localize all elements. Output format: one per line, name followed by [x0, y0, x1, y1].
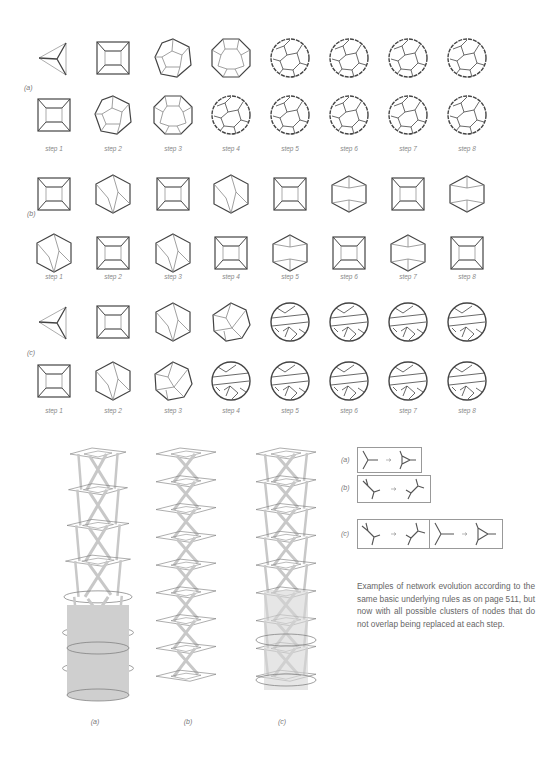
- polyhedron-graphic: [33, 173, 75, 215]
- polyhedron-graphic: [210, 301, 252, 343]
- panel-a-row2-step5-shape: [269, 94, 311, 136]
- polyhedron-graphic: [446, 301, 488, 343]
- panel-c-row1-step3-shape: [152, 301, 194, 343]
- polyhedron-graphic: [387, 37, 429, 79]
- panel-b-step-label: step 8: [442, 273, 492, 280]
- polyhedron-graphic: [269, 37, 311, 79]
- stack-b: [150, 440, 222, 710]
- panel-b-step-label: step 5: [265, 273, 315, 280]
- panel-a-row2-step6-shape: [328, 94, 370, 136]
- panel-c-step-label: step 3: [148, 407, 198, 414]
- panel-c-row2-step2-shape: [92, 360, 134, 402]
- polyhedron-graphic: [33, 37, 75, 79]
- panel-c-row2-step4-shape: [210, 360, 252, 402]
- panel-b-step-label: step 6: [324, 273, 374, 280]
- panel-a-step-label: step 6: [324, 145, 374, 152]
- figure-caption: Examples of network evolution according …: [357, 580, 535, 630]
- panel-a-step-label: step 5: [265, 145, 315, 152]
- polyhedron-graphic: [33, 301, 75, 343]
- panel-b-row2-step5-shape: [269, 232, 311, 274]
- polyhedron-graphic: [92, 37, 134, 79]
- panel-b-row2-step7-shape: [387, 232, 429, 274]
- polyhedron-graphic: [328, 94, 370, 136]
- panel-c-row2-step3-shape: [152, 360, 194, 402]
- polyhedron-graphic: [328, 301, 370, 343]
- panel-c-step-label: step 4: [206, 407, 256, 414]
- rule-b-diagram: [358, 476, 430, 502]
- polyhedron-graphic: [152, 360, 194, 402]
- polyhedron-graphic: [387, 94, 429, 136]
- panel-c-step-label: step 5: [265, 407, 315, 414]
- stack-a-graphic: [62, 440, 134, 710]
- polyhedron-graphic: [269, 360, 311, 402]
- panel-b-row2-step1-shape: [33, 232, 75, 274]
- rule-c-diagram-1: [358, 520, 430, 548]
- panel-a-step-label: step 8: [442, 145, 492, 152]
- polyhedron-graphic: [152, 37, 194, 79]
- polyhedron-graphic: [152, 301, 194, 343]
- panel-b-step-label: step 2: [88, 273, 138, 280]
- panel-c-row2-step6-shape: [328, 360, 370, 402]
- panel-b-row2-step4-shape: [210, 232, 252, 274]
- panel-c-row1-step2-shape: [92, 301, 134, 343]
- panel-c-row1-step7-shape: [387, 301, 429, 343]
- rule-a-label: (a): [341, 456, 350, 463]
- panel-c-step-label: step 8: [442, 407, 492, 414]
- panel-a-step-label: step 3: [148, 145, 198, 152]
- polyhedron-graphic: [92, 94, 134, 136]
- panel-c-row1-step5-shape: [269, 301, 311, 343]
- polyhedron-graphic: [269, 173, 311, 215]
- rule-c-box: [357, 519, 431, 549]
- panel-a-step-label: step 2: [88, 145, 138, 152]
- panel-a-row1-step4-shape: [210, 37, 252, 79]
- panel-a-row1-step3-shape: [152, 37, 194, 79]
- panel-c-step-label: step 7: [383, 407, 433, 414]
- panel-c-row1-step6-shape: [328, 301, 370, 343]
- rule-c-label: (c): [341, 530, 349, 537]
- panel-c-row1-step8-shape: [446, 301, 488, 343]
- polyhedron-graphic: [210, 37, 252, 79]
- panel-b-row1-step7-shape: [387, 173, 429, 215]
- polyhedron-graphic: [152, 232, 194, 274]
- panel-b-step-label: step 4: [206, 273, 256, 280]
- panel-c-row2-step8-shape: [446, 360, 488, 402]
- polyhedron-graphic: [210, 94, 252, 136]
- polyhedron-graphic: [269, 301, 311, 343]
- panel-a-row2-step1-shape: [33, 94, 75, 136]
- panel-b-row1-step8-shape: [446, 173, 488, 215]
- stack-c-label: (c): [267, 718, 297, 725]
- panel-a-row1-step8-shape: [446, 37, 488, 79]
- stack-c-graphic: [250, 440, 322, 710]
- polyhedron-graphic: [328, 173, 370, 215]
- polyhedron-graphic: [328, 232, 370, 274]
- polyhedron-graphic: [33, 360, 75, 402]
- polyhedron-graphic: [328, 360, 370, 402]
- rule-c-box-2: [429, 519, 503, 549]
- panel-b-step-label: step 1: [29, 273, 79, 280]
- panel-c-row1-step1-shape: [33, 301, 75, 343]
- panel-a-row1-step1-shape: [33, 37, 75, 79]
- panel-b-row1-step3-shape: [152, 173, 194, 215]
- panel-a-row1-step7-shape: [387, 37, 429, 79]
- polyhedron-graphic: [152, 94, 194, 136]
- panel-b-row2-step8-shape: [446, 232, 488, 274]
- rule-a-box: [357, 447, 422, 473]
- polyhedron-graphic: [328, 37, 370, 79]
- stack-a-label: (a): [80, 718, 110, 725]
- panel-b-row1-step5-shape: [269, 173, 311, 215]
- polyhedron-graphic: [446, 173, 488, 215]
- polyhedron-graphic: [387, 360, 429, 402]
- panel-a-row2-step2-shape: [92, 94, 134, 136]
- polyhedron-graphic: [152, 173, 194, 215]
- polyhedron-graphic: [92, 301, 134, 343]
- polyhedron-graphic: [269, 232, 311, 274]
- panel-c-row2-step5-shape: [269, 360, 311, 402]
- polyhedron-graphic: [446, 232, 488, 274]
- polyhedron-graphic: [210, 232, 252, 274]
- polyhedron-graphic: [387, 301, 429, 343]
- polyhedron-graphic: [387, 173, 429, 215]
- panel-a-row2-step8-shape: [446, 94, 488, 136]
- panel-a-row2-step4-shape: [210, 94, 252, 136]
- polyhedron-graphic: [92, 173, 134, 215]
- panel-c-step-label: step 2: [88, 407, 138, 414]
